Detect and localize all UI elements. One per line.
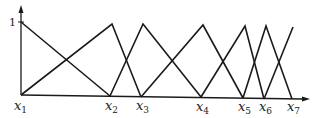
- x-label-4: x4: [196, 99, 209, 116]
- x-axis-arrow-icon: [302, 97, 310, 102]
- x-label-1: x1: [14, 98, 27, 115]
- hat-functions: [21, 22, 293, 99]
- x-label-6: x6: [259, 99, 272, 116]
- x-label-7: x7: [287, 99, 300, 116]
- y-axis-arrow-icon: [19, 5, 24, 13]
- hat-functions-diagram: 1 x1 x2 x3 x4 x5 x6 x7: [0, 0, 319, 118]
- x-label-3: x3: [136, 98, 149, 115]
- phi-3: [110, 24, 201, 97]
- x-label-2: x2: [105, 98, 118, 115]
- phi-6: [243, 26, 292, 99]
- y-axis-label-one: 1: [9, 16, 16, 29]
- x-label-5: x5: [238, 99, 251, 116]
- phi-2: [21, 24, 141, 97]
- x-labels: x1 x2 x3 x4 x5 x6 x7: [14, 98, 300, 116]
- phi-4: [141, 25, 243, 98]
